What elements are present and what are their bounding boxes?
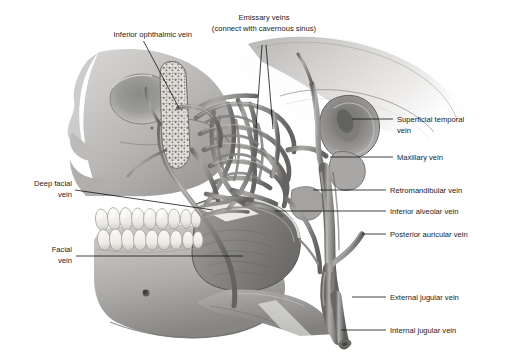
label-line: Inferior alveolar vein <box>390 207 458 216</box>
label-line: vein <box>397 126 411 135</box>
label-line: Deep facial <box>34 179 72 188</box>
label-internal-jugular-vein: Internal jugular vein <box>390 326 456 335</box>
label-external-jugular-vein: External jugular vein <box>390 293 459 302</box>
label-retromandibular-vein: Retromandibular vein <box>390 186 462 195</box>
label-inferior-alveolar-vein: Inferior alveolar vein <box>390 207 458 216</box>
label-line: Posterior auricular vein <box>390 230 468 239</box>
external-acoustic-meatus <box>320 95 380 158</box>
label-line: (connect with cavernous sinus) <box>212 24 317 33</box>
label-inferior-ophthalmic-vein: Inferior ophthalmic vein <box>113 30 192 39</box>
label-line: vein <box>58 190 72 199</box>
label-line: Inferior ophthalmic vein <box>113 30 192 39</box>
label-line: Emissary veins <box>238 13 289 22</box>
label-line: Maxillary vein <box>397 153 443 162</box>
label-line: Retromandibular vein <box>390 186 462 195</box>
label-maxillary-vein: Maxillary vein <box>397 153 443 162</box>
label-posterior-auricular-vein: Posterior auricular vein <box>390 230 468 239</box>
label-line: Superficial temporal <box>397 115 464 124</box>
anatomy-figure: Inferior ophthalmic veinEmissary veins(c… <box>0 0 518 356</box>
label-line: Facial <box>52 245 73 254</box>
label-line: vein <box>58 256 72 265</box>
label-line: External jugular vein <box>390 293 459 302</box>
label-line: Internal jugular vein <box>390 326 456 335</box>
veins-of-head-illustration: Inferior ophthalmic veinEmissary veins(c… <box>0 0 518 356</box>
